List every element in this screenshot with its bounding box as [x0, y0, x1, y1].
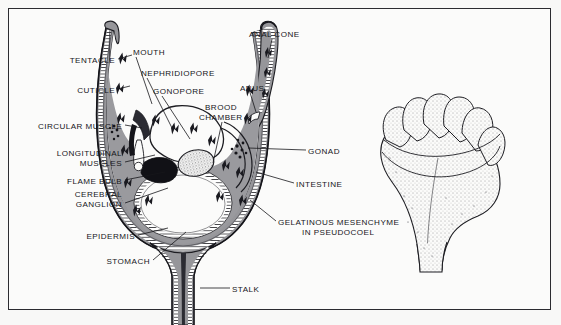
- label-circular-muscle: CIRCULAR MUSCLE: [38, 122, 122, 133]
- oesophagus: [133, 110, 150, 140]
- external-view: [381, 94, 505, 272]
- stomach-lumen: [141, 175, 225, 233]
- label-intestine: INTESTINE: [296, 180, 342, 191]
- leader-mouth: [136, 57, 152, 104]
- label-gonopore: GONOPORE: [153, 87, 204, 98]
- label-nephridiopore: NEPHRIDIOPORE: [141, 69, 215, 80]
- cerebral-ganglion: [141, 158, 177, 183]
- label-cerebral-ganglion-line2: GANGLION: [76, 200, 122, 211]
- label-flame-bulb: FLAME BULB: [67, 177, 122, 188]
- label-brood-chamber-line2: CHAMBER: [199, 113, 243, 124]
- label-cerebral-ganglion-line1: CEREBRAL: [75, 190, 122, 201]
- label-mouth: MOUTH: [133, 48, 165, 59]
- label-epidermis: EPIDERMIS: [86, 232, 135, 243]
- flame-bulb-tip: [134, 162, 142, 170]
- label-stalk: STALK: [232, 285, 259, 296]
- label-anal-cone: ANAL CONE: [249, 30, 300, 41]
- external-stalk: [417, 242, 447, 272]
- label-cuticle: CUTICLE: [77, 86, 115, 97]
- label-mesenchyme-line2: IN PSEUDOCOEL: [302, 228, 374, 239]
- section-view: [97, 21, 278, 325]
- label-tentacle: TENTACLE: [70, 56, 115, 67]
- label-longitudinal-muscles-line2: MUSCLES: [80, 159, 122, 170]
- label-brood-chamber-line1: BROOD: [205, 103, 237, 114]
- label-gonad: GONAD: [308, 147, 340, 158]
- figure-root: TENTACLE CUTICLE CIRCULAR MUSCLE LONGITU…: [0, 0, 561, 325]
- label-longitudinal-muscles-line1: LONGITUDINAL: [57, 149, 122, 160]
- label-stomach: STOMACH: [107, 257, 150, 268]
- label-anus: ANUS: [240, 84, 264, 95]
- label-mesenchyme-line1: GELATINOUS MESENCHYME: [278, 218, 399, 229]
- leader-mesenchyme: [250, 200, 276, 221]
